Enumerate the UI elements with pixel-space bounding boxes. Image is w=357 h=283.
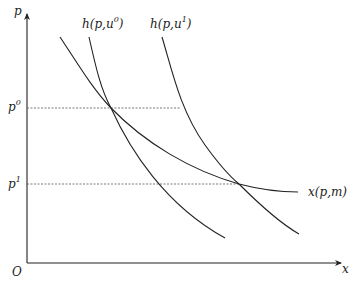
hicksian-demand-u1-curve (162, 37, 299, 234)
demand-diagram: p x O p0 p1 x(p,m) h(p,u0) h(p,u1) (0, 0, 357, 283)
hicksian-demand-u0-curve (89, 37, 225, 238)
p1-label: p1 (8, 175, 21, 191)
marshallian-demand-curve (60, 37, 298, 192)
hicksian-u1-label: h(p,u1) (150, 15, 192, 31)
x-axis-label: x (342, 262, 349, 276)
marshallian-demand-label: x(p,m) (308, 185, 347, 199)
p0-label: p0 (8, 98, 21, 114)
origin-label: O (12, 265, 22, 279)
y-axis-label: p (14, 4, 22, 18)
hicksian-u0-label: h(p,u0) (82, 15, 124, 31)
